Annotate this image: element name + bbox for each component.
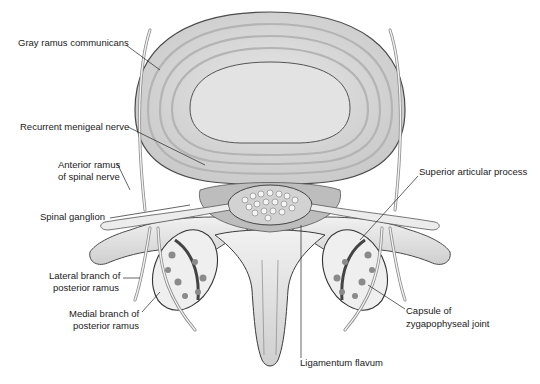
label-lateral-branch-line1: Lateral branch of (49, 270, 120, 282)
label-anterior-ramus-line1: Anterior ramus (58, 159, 120, 171)
label-gray-ramus-communicans: Gray ramus communicans (18, 37, 129, 49)
label-lateral-branch-line2: posterior ramus (53, 282, 119, 294)
label-anterior-ramus-line2: of spinal nerve (58, 171, 120, 183)
label-capsule-line2: zygapophyseal joint (406, 318, 489, 330)
nucleus-pulposus (190, 62, 350, 143)
label-superior-articular-process: Superior articular process (419, 166, 527, 178)
spinous-process (215, 230, 325, 366)
label-ligamentum-flavum: Ligamentum flavum (300, 357, 383, 369)
label-capsule-line1: Capsule of (406, 305, 451, 317)
label-spinal-ganglion: Spinal ganglion (40, 211, 105, 223)
label-medial-branch-line2: posterior ramus (73, 320, 139, 332)
label-recurrent-meningeal-nerve: Recurrent menigeal nerve (20, 121, 129, 133)
label-medial-branch-line1: Medial branch of (69, 308, 139, 320)
anatomical-figure: Gray ramus communicans Recurrent menigea… (0, 0, 540, 384)
